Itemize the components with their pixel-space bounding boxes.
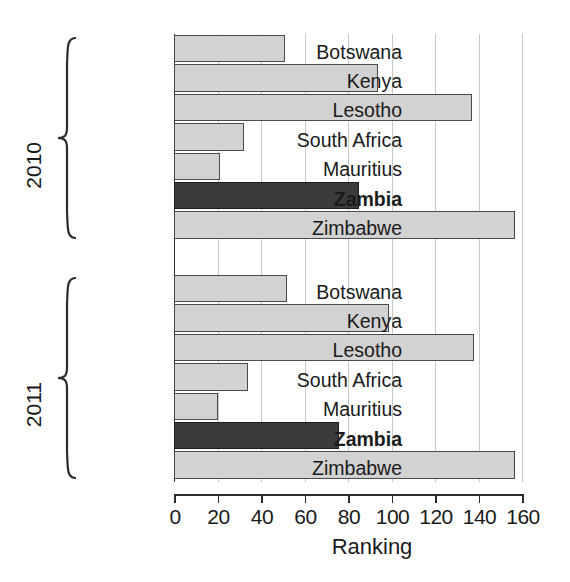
x-tick-120	[435, 494, 437, 503]
gridline-160	[522, 34, 523, 482]
category-label-2010-zimbabwe: Zimbabwe	[312, 219, 402, 239]
bar-chart: 020406080100120140160 Ranking BotswanaKe…	[0, 0, 570, 582]
bar-2011-south-africa	[174, 363, 248, 390]
category-label-2011-zimbabwe: Zimbabwe	[312, 459, 402, 479]
category-label-2010-south-africa: South Africa	[297, 131, 402, 151]
x-tick-label-120: 120	[419, 505, 453, 529]
x-tick-label-140: 140	[463, 505, 497, 529]
category-label-2011-kenya: Kenya	[347, 312, 402, 332]
bar-2011-lesotho	[174, 334, 474, 361]
bar-2011-botswana	[174, 275, 287, 302]
bar-2011-mauritius	[174, 393, 218, 420]
group-label-2011: 2011	[22, 382, 46, 427]
x-tick-label-20: 20	[207, 505, 229, 529]
category-label-2011-mauritius: Mauritius	[323, 400, 402, 420]
bar-2011-zambia	[174, 422, 339, 449]
bar-2010-mauritius	[174, 153, 220, 180]
bar-2010-south-africa	[174, 123, 244, 150]
x-axis-title-text: Ranking	[332, 534, 413, 559]
category-label-2010-zambia: Zambia	[334, 190, 402, 210]
x-tick-label-40: 40	[251, 505, 273, 529]
group-brace-2010	[56, 36, 78, 240]
x-tick-140	[479, 494, 481, 503]
x-axis-title: Ranking	[0, 534, 570, 560]
category-label-2010-botswana: Botswana	[316, 43, 402, 63]
category-label-2011-zambia: Zambia	[334, 430, 402, 450]
category-label-2011-botswana: Botswana	[316, 283, 402, 303]
x-tick-100	[392, 494, 394, 503]
category-label-2010-kenya: Kenya	[347, 72, 402, 92]
x-tick-label-80: 80	[338, 505, 360, 529]
x-tick-40	[261, 494, 263, 503]
category-label-2010-mauritius: Mauritius	[323, 160, 402, 180]
category-label-2011-lesotho: Lesotho	[333, 341, 402, 361]
group-brace-2011	[56, 276, 78, 480]
category-label-2010-lesotho: Lesotho	[333, 101, 402, 121]
x-tick-160	[522, 494, 524, 503]
bar-2010-botswana	[174, 35, 285, 62]
group-label-2010: 2010	[22, 142, 46, 189]
x-tick-20	[218, 494, 220, 503]
x-tick-label-100: 100	[376, 505, 410, 529]
bar-2010-lesotho	[174, 94, 472, 121]
x-tick-label-160: 160	[506, 505, 540, 529]
bar-2010-zambia	[174, 182, 359, 209]
category-label-2011-south-africa: South Africa	[297, 371, 402, 391]
x-tick-80	[348, 494, 350, 503]
x-tick-60	[305, 494, 307, 503]
x-tick-label-0: 0	[169, 505, 180, 529]
x-tick-0	[174, 494, 176, 503]
x-tick-label-60: 60	[294, 505, 316, 529]
